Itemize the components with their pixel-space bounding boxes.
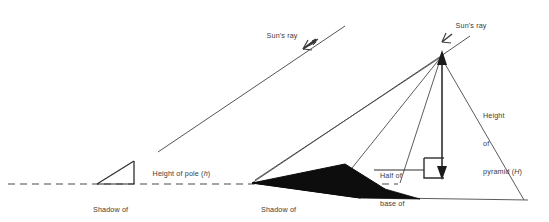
- label-sun-ray-left: Sun's ray: [258, 22, 298, 50]
- label-sun-ray-right: Sun's ray: [447, 12, 487, 40]
- sun-ray-left-arrowhead-icon: [303, 39, 318, 50]
- label-shadow-of-pyramid: Shadow of pyramid (m): [261, 186, 301, 222]
- label-height-of-pyramid: Height of pyramid (H): [483, 92, 522, 195]
- label-shadow-of-pole: Shadow of pole (L): [93, 186, 128, 222]
- label-height-pyramid-line3: pyramid (H): [483, 167, 522, 176]
- label-shadow-of-pole-line1: Shadow of: [93, 205, 128, 214]
- pyramid-shadow-diagram: Sun's ray Sun's ray Height of pole (h) S…: [0, 0, 549, 222]
- label-height-of-pole: Height of pole (h): [144, 160, 210, 188]
- label-half-base-line2: base of: [380, 199, 418, 208]
- label-height-pyramid-line1: Height: [483, 111, 522, 120]
- label-half-of-base-of-pyramid: Half of base of pyramid (b): [380, 152, 418, 222]
- label-shadow-of-pyramid-line1: Shadow of: [261, 205, 301, 214]
- label-half-base-line1: Half of: [380, 171, 418, 180]
- sun-ray-left-line: [158, 26, 345, 152]
- pole-hypotenuse-ray: [97, 161, 134, 184]
- label-height-pyramid-line2: of: [483, 139, 522, 148]
